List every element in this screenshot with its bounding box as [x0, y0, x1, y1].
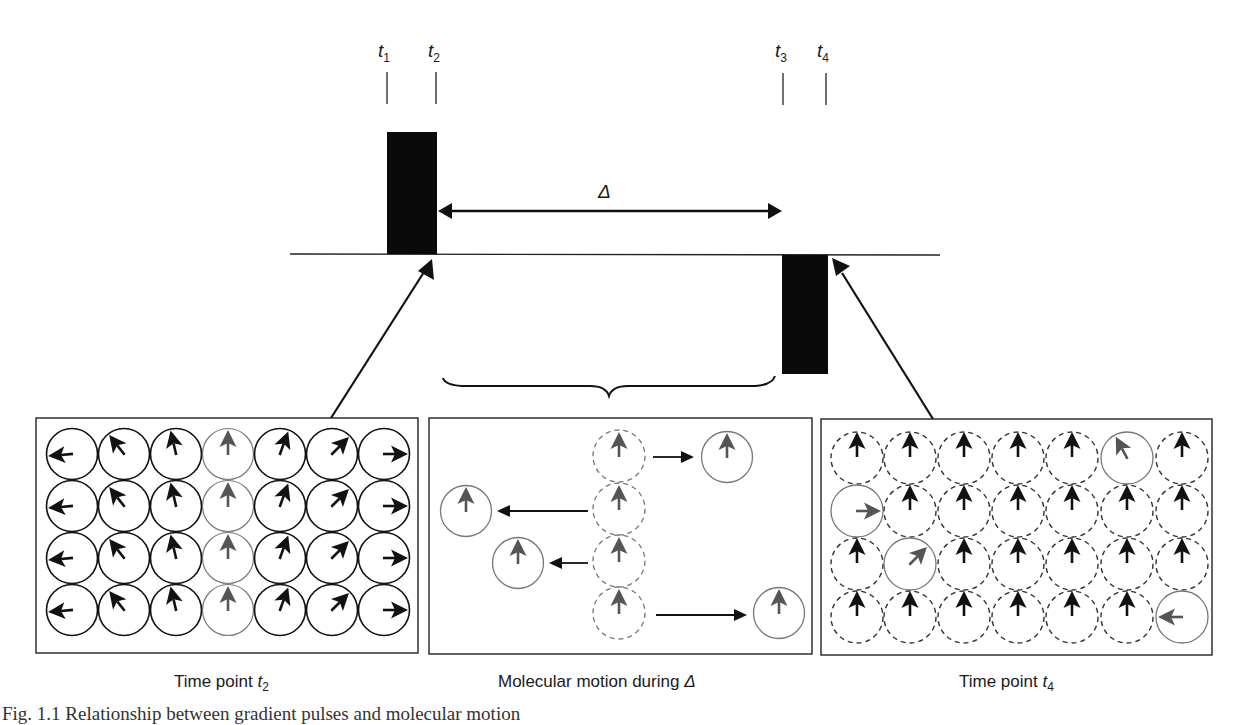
spin-arrow-icon [331, 489, 349, 507]
spin-arrow-icon [220, 430, 237, 455]
spin-arrow-icon [166, 535, 183, 559]
spin-arrow-icon [166, 483, 183, 507]
panel-t2-label-sub: 2 [262, 680, 269, 694]
spin-arrow-icon [849, 591, 866, 616]
sequence-baseline [290, 254, 940, 255]
spin-arrow-icon [1116, 437, 1131, 459]
spin-arrow-icon [383, 550, 408, 567]
spin-arrow-icon [1119, 485, 1136, 510]
spin-arrow-icon [220, 482, 237, 507]
spin-arrow-icon [48, 550, 73, 567]
label-t4-sub: 4 [822, 51, 829, 65]
spin-arrow-icon [1064, 538, 1081, 563]
arrow-to-t2 [331, 272, 424, 418]
spin-arrow-icon [902, 432, 919, 457]
spin-arrow-icon [956, 538, 973, 563]
spin-arrow-icon [109, 487, 126, 507]
spin-arrow-icon [611, 432, 628, 457]
displacement-arrow [656, 609, 747, 621]
panel-t2-label: Time point t2 [174, 672, 269, 694]
spin-arrow-icon [220, 586, 237, 611]
spin-arrow-icon [856, 503, 881, 520]
delta-brace [443, 376, 775, 396]
spin-arrow-icon [109, 591, 126, 611]
spin-arrow-icon [1064, 485, 1081, 510]
arrow-to-t4 [842, 273, 933, 419]
spin-arrow-icon [849, 538, 866, 563]
spin-arrow-icon [331, 541, 349, 559]
displacement-arrow [497, 505, 588, 517]
spin-arrow-icon [956, 485, 973, 510]
label-t1-sub: 1 [383, 51, 390, 65]
spin-arrow-icon [611, 485, 628, 510]
label-t2: t2 [428, 40, 440, 65]
displacement-arrow [653, 451, 694, 463]
panel-t4-label: Time point t4 [959, 672, 1054, 694]
panel-motion-label: Molecular motion during Δ [498, 672, 696, 692]
pointer-arrows [331, 258, 933, 419]
delta-double-arrow [438, 203, 782, 219]
time-ticks [387, 72, 826, 105]
label-t2-sub: 2 [433, 51, 440, 65]
spin-arrow-icon [849, 432, 866, 457]
spin-arrow-icon [1174, 485, 1191, 510]
spin-arrow-icon [458, 487, 475, 512]
spin-arrow-icon [1010, 591, 1027, 616]
spin-grid-t4 [831, 432, 1208, 643]
spin-arrow-icon [109, 539, 126, 559]
panel-t4-label-text: Time point [959, 672, 1042, 691]
spin-arrow-icon [1010, 485, 1027, 510]
spin-arrow-icon [274, 535, 290, 558]
panel-motion-label-text: Molecular motion during [498, 672, 684, 691]
spin-arrow-icon [1174, 432, 1191, 457]
spin-arrow-icon [331, 437, 349, 455]
spin-arrow-icon [1064, 591, 1081, 616]
spin-arrow-icon [383, 446, 408, 463]
spin-arrow-icon [1119, 591, 1136, 616]
spin-arrow-icon [1064, 432, 1081, 457]
spin-arrow-icon [331, 593, 349, 611]
spin-arrow-icon [274, 587, 290, 610]
spin-arrow-icon [611, 589, 628, 614]
spin-arrow-icon [48, 446, 73, 463]
delta-label: Δ [598, 181, 611, 203]
spin-arrow-icon [109, 435, 126, 455]
spin-arrow-icon [902, 485, 919, 510]
label-t3-sub: 3 [780, 51, 787, 65]
spin-arrow-icon [909, 547, 927, 565]
molecular-motion-group [441, 430, 805, 639]
spin-arrow-icon [1010, 432, 1027, 457]
label-t3: t3 [775, 40, 787, 65]
spin-arrow-icon [611, 537, 628, 562]
spin-arrow-icon [220, 534, 237, 559]
panel-t2-label-text: Time point [174, 672, 257, 691]
label-t1: t1 [378, 40, 390, 65]
displacement-arrow [549, 557, 588, 569]
spin-arrow-icon [48, 602, 73, 619]
spin-arrow-icon [902, 591, 919, 616]
spin-arrow-icon [1158, 609, 1183, 626]
spin-arrow-icon [1010, 538, 1027, 563]
spin-arrow-icon [274, 483, 290, 506]
spin-arrow-icon [719, 433, 736, 458]
spin-arrow-icon [166, 431, 183, 455]
spin-arrow-icon [510, 539, 527, 564]
spin-arrow-icon [956, 591, 973, 616]
spin-grid-t2 [47, 429, 410, 636]
spin-arrow-icon [383, 498, 408, 515]
panel-motion-label-var: Δ [684, 672, 695, 691]
spin-arrow-icon [771, 589, 788, 614]
second-gradient-pulse [782, 255, 828, 374]
first-gradient-pulse [387, 132, 437, 254]
spin-arrow-icon [383, 602, 408, 619]
spin-arrow-icon [274, 431, 290, 454]
spin-arrow-icon [1119, 538, 1136, 563]
spin-arrow-icon [956, 432, 973, 457]
label-t4: t4 [817, 40, 829, 65]
spin-arrow-icon [1174, 538, 1191, 563]
spin-arrow-icon [166, 587, 183, 611]
figure-caption-fragment: Fig. 1.1 Relationship between gradient p… [2, 703, 520, 725]
panel-t4-label-sub: 4 [1047, 680, 1054, 694]
spin-arrow-icon [48, 498, 73, 515]
